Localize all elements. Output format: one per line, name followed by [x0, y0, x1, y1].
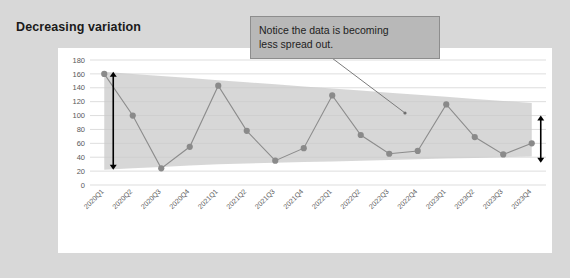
svg-text:2023Q2: 2023Q2 — [453, 188, 476, 211]
callout-line-2: less spread out. — [259, 37, 431, 51]
data-point — [386, 151, 392, 157]
x-tick-label: 2020Q4 — [168, 188, 191, 211]
svg-text:2021Q4: 2021Q4 — [282, 188, 305, 211]
x-tick-label: 2020Q3 — [139, 188, 162, 211]
x-tick-label: 2023Q1 — [424, 188, 447, 211]
x-tick-label: 2023Q4 — [510, 188, 533, 211]
data-point — [101, 71, 107, 77]
data-point — [187, 144, 193, 150]
right-variation-arrow-head-bottom — [537, 158, 544, 163]
data-point — [443, 101, 449, 107]
data-point — [529, 140, 535, 146]
y-tick-label: 160 — [72, 70, 85, 79]
svg-text:2023Q3: 2023Q3 — [481, 188, 504, 211]
data-point — [215, 83, 221, 89]
svg-text:2023Q4: 2023Q4 — [510, 188, 533, 211]
y-tick-label: 120 — [72, 97, 85, 106]
y-tick-label: 0 — [81, 181, 85, 190]
page-title: Decreasing variation — [16, 20, 141, 34]
x-tick-label: 2021Q1 — [196, 188, 219, 211]
data-point — [244, 128, 250, 134]
svg-text:2022Q1: 2022Q1 — [310, 188, 333, 211]
data-point — [158, 165, 164, 171]
x-tick-label: 2020Q1 — [82, 188, 105, 211]
data-point — [500, 151, 506, 157]
y-tick-label: 100 — [72, 111, 85, 120]
svg-text:2020Q4: 2020Q4 — [168, 188, 191, 211]
x-tick-label: 2020Q2 — [111, 188, 134, 211]
x-tick-label: 2021Q3 — [253, 188, 276, 211]
y-tick-label: 140 — [72, 83, 85, 92]
svg-text:2020Q3: 2020Q3 — [139, 188, 162, 211]
chart-panel: 0204060801001201401601802020Q12020Q22020… — [58, 48, 552, 253]
svg-text:2023Q1: 2023Q1 — [424, 188, 447, 211]
data-point — [329, 92, 335, 98]
svg-text:2022Q2: 2022Q2 — [339, 188, 362, 211]
line-chart: 0204060801001201401601802020Q12020Q22020… — [58, 48, 552, 253]
y-tick-label: 180 — [72, 56, 85, 65]
x-tick-label: 2023Q3 — [481, 188, 504, 211]
svg-text:2021Q1: 2021Q1 — [196, 188, 219, 211]
x-tick-label: 2022Q2 — [339, 188, 362, 211]
callout-annotation: Notice the data is becoming less spread … — [250, 16, 440, 59]
y-tick-label: 80 — [77, 125, 85, 134]
callout-line-1: Notice the data is becoming — [259, 23, 431, 37]
data-point — [272, 158, 278, 164]
data-point — [130, 112, 136, 118]
y-tick-label: 40 — [77, 153, 85, 162]
callout-leader-endpoint — [403, 111, 406, 114]
x-tick-label: 2022Q4 — [396, 188, 419, 211]
data-point — [472, 134, 478, 140]
data-point — [415, 148, 421, 154]
svg-text:2022Q4: 2022Q4 — [396, 188, 419, 211]
y-tick-label: 20 — [77, 167, 85, 176]
svg-text:2022Q3: 2022Q3 — [367, 188, 390, 211]
svg-text:2020Q2: 2020Q2 — [111, 188, 134, 211]
x-tick-label: 2021Q2 — [225, 188, 248, 211]
y-tick-label: 60 — [77, 139, 85, 148]
x-tick-label: 2022Q3 — [367, 188, 390, 211]
svg-text:2021Q3: 2021Q3 — [253, 188, 276, 211]
x-tick-label: 2022Q1 — [310, 188, 333, 211]
data-point — [301, 145, 307, 151]
x-tick-label: 2023Q2 — [453, 188, 476, 211]
x-tick-label: 2021Q4 — [282, 188, 305, 211]
svg-text:2020Q1: 2020Q1 — [82, 188, 105, 211]
svg-text:2021Q2: 2021Q2 — [225, 188, 248, 211]
right-variation-arrow-head-top — [537, 116, 544, 121]
data-point — [358, 132, 364, 138]
